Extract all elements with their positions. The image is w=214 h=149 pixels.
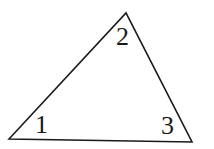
angle-label-2: 2 <box>116 22 129 51</box>
angle-label-3: 3 <box>161 111 174 140</box>
angle-label-1: 1 <box>35 110 48 139</box>
triangle-diagram: 1 2 3 <box>0 0 214 149</box>
